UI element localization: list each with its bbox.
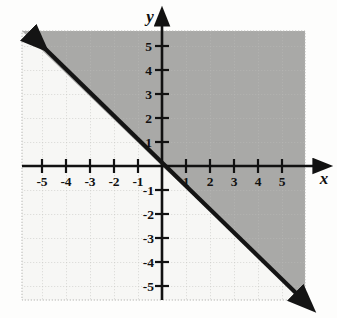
y-tick-label: 4 [145,63,152,78]
y-axis-label: y [144,7,154,26]
x-tick-label: -5 [36,174,47,189]
y-tick-label: -1 [143,183,154,198]
x-tick-label: -3 [84,174,95,189]
y-tick-label: 3 [145,87,152,102]
y-tick-label: -3 [143,231,154,246]
y-tick-label: 5 [145,39,152,54]
y-tick-label: -4 [143,255,154,270]
y-tick-label: 1 [145,135,152,150]
graph-svg: -5 -4 -3 -2 -1 1 2 3 4 5 1 2 3 4 5 -1 -2… [0,0,337,318]
x-tick-label: -4 [60,174,71,189]
y-tick-label: -2 [143,207,154,222]
y-tick-label: 2 [145,111,152,126]
x-tick-label: -2 [108,174,119,189]
x-tick-label: 2 [207,174,214,189]
x-tick-label: 3 [231,174,238,189]
y-tick-label: -5 [143,279,154,294]
x-tick-label: 4 [255,174,262,189]
x-tick-label: 5 [279,174,286,189]
coordinate-plane-figure: -5 -4 -3 -2 -1 1 2 3 4 5 1 2 3 4 5 -1 -2… [0,0,337,318]
x-axis-label: x [319,169,329,188]
x-tick-label: 1 [183,174,190,189]
